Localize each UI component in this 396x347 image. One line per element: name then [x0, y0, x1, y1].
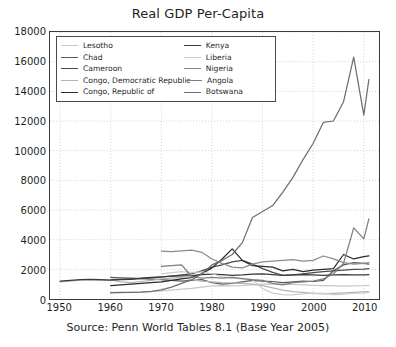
legend-row: ChadLiberia [61, 52, 271, 64]
legend-color-swatch [184, 92, 201, 93]
y-tick-label: 4000 [0, 235, 46, 246]
source-caption: Source: Penn World Tables 8.1 (Base Year… [0, 321, 396, 334]
y-tick-label: 14000 [0, 85, 46, 96]
legend-item[interactable]: Cameroon [61, 65, 184, 73]
y-tick-label: 6000 [0, 205, 46, 216]
legend-item[interactable]: Chad [61, 54, 184, 62]
legend-item[interactable]: Congo, Republic of [61, 88, 184, 96]
y-tick-label: 0 [0, 295, 46, 306]
legend-color-swatch [61, 92, 78, 93]
legend-label: Congo, Republic of [83, 88, 154, 96]
legend-label: Cameroon [83, 65, 122, 73]
legend-label: Botswana [206, 88, 243, 96]
legend-color-swatch [61, 45, 78, 46]
legend-color-swatch [61, 57, 78, 58]
legend-label: Lesotho [83, 42, 113, 50]
x-tick-label: 1980 [199, 302, 224, 313]
legend-color-swatch [184, 45, 201, 46]
legend-color-swatch [184, 57, 201, 58]
legend-item[interactable]: Angola [185, 77, 271, 85]
legend-color-swatch [61, 80, 78, 81]
y-axis: 0200040006000800010000120001400016000180… [0, 31, 46, 300]
x-tick-label: 1950 [46, 302, 71, 313]
y-tick-label: 10000 [0, 145, 46, 156]
legend-row: Congo, Democratic RepublicAngola [61, 75, 271, 87]
legend-label: Liberia [206, 54, 232, 62]
legend-label: Nigeria [206, 65, 233, 73]
legend-item[interactable]: Kenya [184, 42, 271, 50]
series-line [111, 260, 369, 279]
legend-row: Congo, Republic ofBotswana [61, 86, 271, 98]
x-tick-label: 2010 [352, 302, 377, 313]
y-tick-label: 16000 [0, 55, 46, 66]
legend-item[interactable]: Liberia [184, 54, 271, 62]
x-tick-label: 1970 [148, 302, 173, 313]
legend-item[interactable]: Botswana [184, 88, 271, 96]
y-tick-label: 2000 [0, 265, 46, 276]
legend-label: Chad [83, 54, 103, 62]
legend-color-swatch [185, 80, 202, 81]
y-tick-label: 18000 [0, 26, 46, 37]
legend-item[interactable]: Congo, Democratic Republic [61, 77, 185, 85]
y-tick-label: 12000 [0, 115, 46, 126]
legend-label: Congo, Democratic Republic [83, 77, 191, 85]
series-line [161, 250, 369, 268]
chart-title: Real GDP Per-Capita [0, 6, 396, 21]
y-tick-label: 8000 [0, 175, 46, 186]
legend-color-swatch [184, 68, 201, 69]
legend-row: CameroonNigeria [61, 63, 271, 75]
x-tick-label: 1960 [97, 302, 122, 313]
legend-color-swatch [61, 68, 78, 69]
x-axis: 1950196019701980199020002010 [49, 302, 380, 318]
legend-item[interactable]: Nigeria [184, 65, 271, 73]
legend-item[interactable]: Lesotho [61, 42, 184, 50]
chart-legend[interactable]: LesothoKenyaChadLiberiaCameroonNigeriaCo… [56, 36, 276, 102]
x-tick-label: 2000 [301, 302, 326, 313]
x-tick-label: 1990 [250, 302, 275, 313]
legend-label: Kenya [206, 42, 229, 50]
legend-row: LesothoKenya [61, 40, 271, 52]
legend-label: Angola [207, 77, 233, 85]
chart-figure: Real GDP Per-Capita 02000400060008000100… [0, 0, 396, 347]
